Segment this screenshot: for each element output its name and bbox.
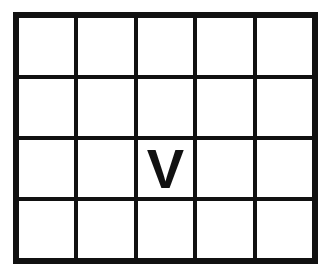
grid-cell-r1c2[interactable]	[78, 18, 133, 75]
grid-cell-r1c3[interactable]	[138, 18, 193, 75]
grid-cell-r2c1[interactable]	[19, 79, 74, 136]
grid-cell-r4c2[interactable]	[78, 201, 133, 258]
grid-cell-r3c5[interactable]	[257, 140, 312, 197]
grid-figure: V	[13, 12, 318, 264]
grid-cell-r1c1[interactable]	[19, 18, 74, 75]
grid-cell-r4c5[interactable]	[257, 201, 312, 258]
grid-cell-r3c3[interactable]: V	[138, 140, 193, 197]
grid-cell-r2c5[interactable]	[257, 79, 312, 136]
grid-cell-r4c1[interactable]	[19, 201, 74, 258]
grid-cell-r3c4[interactable]	[197, 140, 252, 197]
grid-cell-r2c4[interactable]	[197, 79, 252, 136]
grid-cell-r3c2[interactable]	[78, 140, 133, 197]
grid-cell-r2c3[interactable]	[138, 79, 193, 136]
grid-cell-r4c4[interactable]	[197, 201, 252, 258]
grid-cell-container: V	[19, 18, 312, 258]
grid-cell-r1c5[interactable]	[257, 18, 312, 75]
grid-cell-letter-v: V	[138, 147, 193, 191]
grid-cell-r2c2[interactable]	[78, 79, 133, 136]
grid-cell-r1c4[interactable]	[197, 18, 252, 75]
grid-cell-r4c3[interactable]	[138, 201, 193, 258]
grid-cell-r3c1[interactable]	[19, 140, 74, 197]
